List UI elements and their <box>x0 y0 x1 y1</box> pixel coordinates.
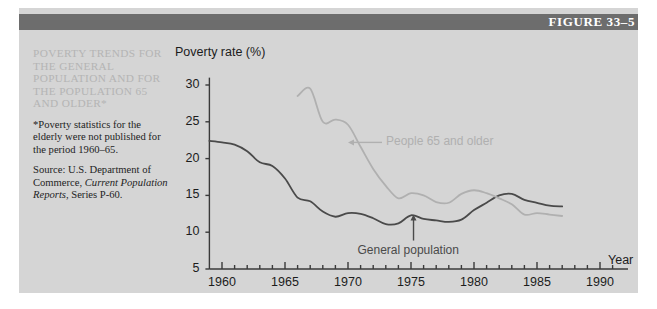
x-tick-label-1975: 1975 <box>389 275 433 289</box>
figure-number-label: FIGURE 33–5 <box>549 14 635 30</box>
y-axis-title: Poverty rate (%) <box>175 45 265 59</box>
source-suffix: , Series P-60. <box>66 189 123 200</box>
y-tick-label-10: 10 <box>173 224 199 238</box>
y-tick-label-25: 25 <box>173 114 199 128</box>
x-tick-label-1985: 1985 <box>515 275 559 289</box>
x-tick-label-1965: 1965 <box>263 275 307 289</box>
caption-footnote: *Poverty statistics for the elderly were… <box>33 119 173 156</box>
caption-title: POVERTY TRENDS FOR THE GENERAL POPULATIO… <box>33 47 173 110</box>
figure-header-bar <box>19 14 638 30</box>
general-series-label: General population <box>358 243 459 257</box>
caption-block: POVERTY TRENDS FOR THE GENERAL POPULATIO… <box>33 47 173 209</box>
y-tick-label-5: 5 <box>173 261 199 275</box>
y-tick-label-20: 20 <box>173 151 199 165</box>
elderly-series-label: People 65 and older <box>386 134 493 148</box>
figure-container: FIGURE 33–5 POVERTY TRENDS FOR THE GENER… <box>0 0 657 309</box>
x-tick-label-1960: 1960 <box>200 275 244 289</box>
x-tick-label-1970: 1970 <box>326 275 370 289</box>
x-axis-title: Year <box>608 253 633 267</box>
x-tick-label-1990: 1990 <box>578 275 622 289</box>
caption-source: Source: U.S. Department of Commerce, Cur… <box>33 164 173 201</box>
y-tick-label-15: 15 <box>173 187 199 201</box>
y-tick-label-30: 30 <box>173 77 199 91</box>
x-tick-label-1980: 1980 <box>452 275 496 289</box>
